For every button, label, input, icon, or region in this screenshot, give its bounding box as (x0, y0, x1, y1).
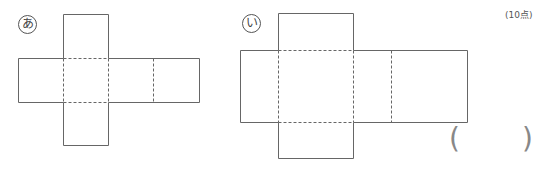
answer-open-paren: ( (449, 124, 460, 154)
nets-diagram (0, 0, 545, 169)
answer-close-paren: ) (522, 124, 533, 154)
net-b (241, 14, 468, 159)
net-a (19, 15, 200, 146)
points-label: (10点) (505, 8, 532, 21)
net-b-label: い (242, 14, 261, 33)
answer-field[interactable] (465, 126, 520, 154)
